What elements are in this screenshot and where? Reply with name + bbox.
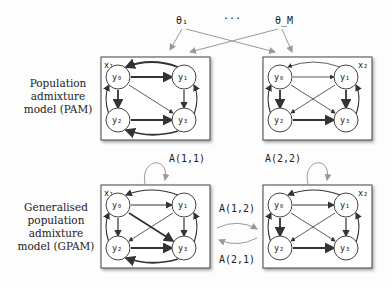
theta-arrows [170, 29, 292, 52]
node-y2: y₂ [274, 115, 284, 125]
pam-box-x1: x₁ y₀ y₁ y₂ y₃ [101, 57, 210, 140]
node-y1: y₁ [178, 200, 188, 210]
node-y2: y₂ [274, 243, 284, 253]
a22-label: A(2,2) [265, 153, 301, 164]
diagram-canvas: θ₁ ··· θ_M x₁ y₀ y₁ y₂ y₃ [0, 0, 392, 288]
node-y3: y₃ [340, 115, 350, 125]
node-y3: y₃ [178, 243, 188, 253]
node-y1: y₁ [340, 72, 350, 82]
pam-box-x2: x₂ y₀ y₁ y₂ y₃ [263, 57, 372, 140]
node-y2: y₂ [112, 243, 122, 253]
theta-1-label: θ₁ [176, 15, 188, 26]
node-y1: y₁ [178, 72, 188, 82]
node-y1: y₁ [340, 200, 350, 210]
node-y0: y₀ [112, 72, 122, 82]
node-y0: y₀ [112, 200, 122, 210]
node-y3: y₃ [340, 243, 350, 253]
node-y2: y₂ [112, 115, 122, 125]
node-y0: y₀ [274, 72, 284, 82]
node-y0: y₀ [274, 200, 284, 210]
node-y3: y₃ [178, 115, 188, 125]
box-label: x₂ [358, 188, 368, 198]
box-label: x₂ [358, 60, 368, 70]
theta-m-label: θ_M [275, 15, 293, 27]
gpam-box-x2: x₂ y₀ y₁ y₂ y₃ [263, 185, 372, 268]
gpam-box-x1: x₁ y₀ y₁ y₂ y₃ [101, 185, 210, 268]
a12-label: A(1,2) [219, 203, 255, 214]
ellipsis: ··· [223, 13, 241, 24]
a21-label: A(2,1) [219, 254, 255, 265]
a11-label: A(1,1) [169, 153, 205, 164]
